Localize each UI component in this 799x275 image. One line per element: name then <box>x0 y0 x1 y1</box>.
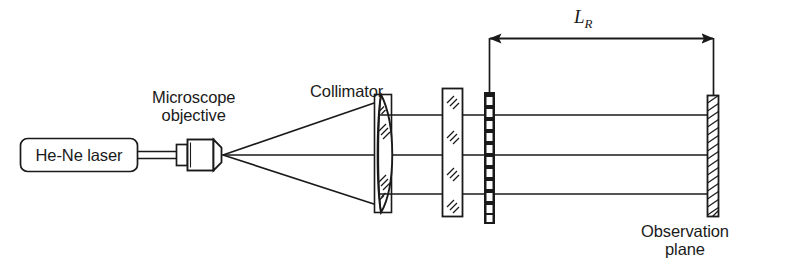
distance-lr-label: LR <box>574 6 593 32</box>
microscope-objective-body <box>177 140 222 171</box>
distance-lr-subscript: R <box>585 16 593 31</box>
he-ne-laser-label: He-Ne laser <box>20 146 138 164</box>
objective-front-cone <box>214 140 222 171</box>
microscope-objective-label: Microscope objective <box>152 88 235 125</box>
diverging-beam-cone <box>223 101 380 206</box>
glass-plate <box>443 89 463 217</box>
diverging-ray-upper <box>223 101 380 155</box>
laser-output-stub <box>137 152 176 159</box>
observation-plane-label-line2: plane <box>641 240 729 258</box>
microscope-objective-label-line1: Microscope <box>152 88 235 106</box>
observation-plane-assembly <box>708 96 719 217</box>
observation-plane-label: Observation plane <box>641 222 729 259</box>
dimension-lr <box>490 38 714 95</box>
microscope-objective-label-line2: objective <box>152 106 235 124</box>
optical-diagram-canvas: He-Ne laser Microscope objective Collima… <box>0 0 799 275</box>
collimator-label: Collimator <box>310 82 383 100</box>
objective-rear-collar <box>177 145 188 166</box>
grating-mask-assembly <box>484 92 495 224</box>
diverging-ray-lower <box>223 155 380 206</box>
distance-lr-symbol: L <box>574 6 585 27</box>
observation-plane-label-line1: Observation <box>641 222 729 240</box>
glass-plate-assembly <box>443 89 463 217</box>
objective-barrel <box>188 140 214 171</box>
